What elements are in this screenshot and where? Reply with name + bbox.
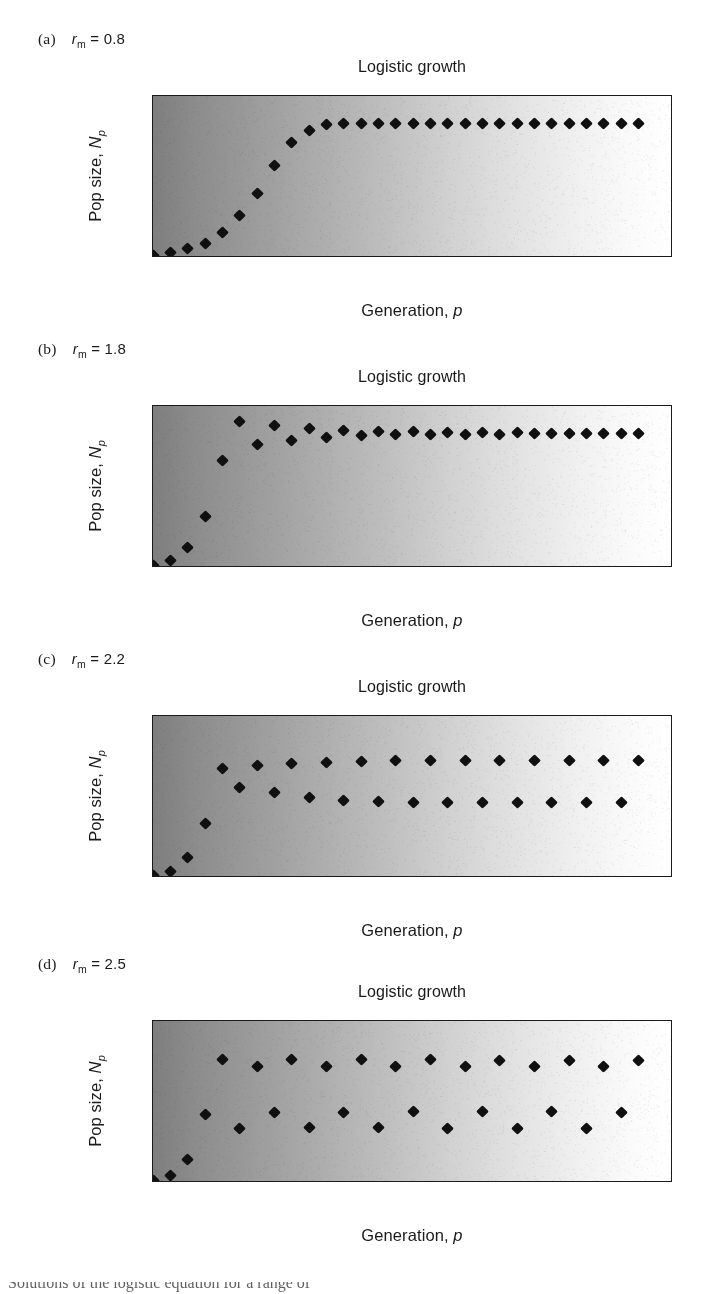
figure-caption-text: Solutions of the logistic equation for a… (8, 1282, 310, 1292)
y-axis-label: Pop size, Np (86, 1020, 107, 1182)
y-axis-tick (152, 204, 153, 205)
panel-label: (d)rm = 2.5 (38, 955, 126, 975)
x-axis-tick (326, 876, 327, 877)
panel-tag: (d) (38, 955, 57, 972)
panel-tag: (a) (38, 30, 56, 47)
y-axis-tick (152, 541, 153, 542)
chart-title: Logistic growth (152, 58, 672, 76)
y-axis-tick (152, 1102, 153, 1103)
panel-parameter: rm = 2.2 (72, 650, 125, 667)
chart-title: Logistic growth (152, 678, 672, 696)
x-axis-tick (500, 256, 501, 257)
panel-c: (c)rm = 2.2Logistic growth02040608001020… (0, 650, 718, 947)
y-axis-tick (152, 177, 153, 178)
logistic-growth-figure: (a)rm = 0.8Logistic growth01020304050600… (0, 0, 718, 1294)
panel-parameter: rm = 1.8 (73, 340, 126, 357)
x-axis-label: Generation, p (152, 301, 672, 320)
y-axis-label: Pop size, Np (86, 405, 107, 567)
panel-a: (a)rm = 0.8Logistic growth01020304050600… (0, 30, 718, 327)
x-axis-label: Generation, p (152, 611, 672, 630)
y-axis-label: Pop size, Np (86, 715, 107, 877)
x-axis-tick (153, 566, 154, 567)
panel-parameter: rm = 2.5 (73, 955, 126, 972)
y-axis-label: Pop size, Np (86, 95, 107, 257)
y-axis-tick (152, 797, 153, 798)
y-axis-tick (152, 716, 153, 717)
y-axis-tick (152, 1021, 153, 1022)
x-axis-label: Generation, p (152, 1226, 672, 1245)
x-axis-tick (153, 256, 154, 257)
y-axis-tick (152, 406, 153, 407)
y-axis-tick (152, 460, 153, 461)
plot-area: 01020304050600102030 (152, 405, 672, 567)
panel-tag: (b) (38, 340, 57, 357)
x-axis-tick (326, 256, 327, 257)
y-axis-tick (152, 487, 153, 488)
panel-label: (a)rm = 0.8 (38, 30, 125, 50)
chart-title: Logistic growth (152, 983, 672, 1001)
x-axis-tick (326, 566, 327, 567)
panel-d: (d)rm = 2.5Logistic growth02040608001020… (0, 955, 718, 1252)
panel-label: (c)rm = 2.2 (38, 650, 125, 670)
y-axis-tick (152, 150, 153, 151)
y-axis-tick (152, 433, 153, 434)
x-axis-tick (500, 876, 501, 877)
plot-area: 0204060800102030 (152, 715, 672, 877)
y-axis-tick (152, 757, 153, 758)
x-axis-tick (500, 566, 501, 567)
y-axis-tick (152, 1062, 153, 1063)
plot-area: 01020304050600102030 (152, 95, 672, 257)
y-axis-tick (152, 838, 153, 839)
x-axis-label: Generation, p (152, 921, 672, 940)
y-axis-tick (152, 96, 153, 97)
panel-label: (b)rm = 1.8 (38, 340, 126, 360)
x-axis-tick (153, 1181, 154, 1182)
panel-parameter: rm = 0.8 (72, 30, 125, 47)
x-axis-tick (500, 1181, 501, 1182)
chart-title: Logistic growth (152, 368, 672, 386)
plot-area: 0204060800102030 (152, 1020, 672, 1182)
panel-b: (b)rm = 1.8Logistic growth01020304050600… (0, 340, 718, 637)
figure-caption-clipped: Solutions of the logistic equation for a… (0, 1282, 718, 1294)
x-axis-tick (153, 876, 154, 877)
y-axis-tick (152, 231, 153, 232)
y-axis-tick (152, 123, 153, 124)
y-axis-tick (152, 1143, 153, 1144)
panel-tag: (c) (38, 650, 56, 667)
y-axis-tick (152, 514, 153, 515)
x-axis-tick (326, 1181, 327, 1182)
